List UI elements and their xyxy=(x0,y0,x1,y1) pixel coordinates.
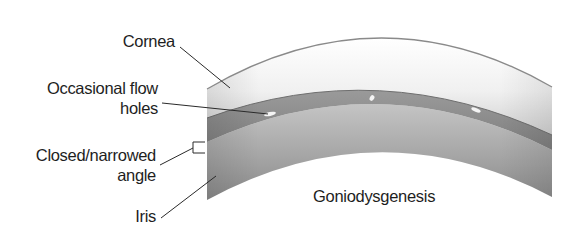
angle-bracket xyxy=(193,142,205,153)
flow-holes-label-line1: Occasional flow xyxy=(47,79,158,97)
iris-label: Iris xyxy=(135,207,156,225)
diagram-caption: Goniodysgenesis xyxy=(313,187,435,205)
angle-label-line1: Closed/narrowed xyxy=(36,146,156,164)
angle-label-line2: angle xyxy=(117,166,156,184)
angle-leader-line xyxy=(160,148,193,165)
cornea-label: Cornea xyxy=(123,32,176,50)
cornea-leader-line xyxy=(180,47,230,88)
flow-holes-label-line2: holes xyxy=(120,99,158,117)
goniodysgenesis-diagram: Cornea Occasional flow holes Closed/narr… xyxy=(0,0,565,238)
